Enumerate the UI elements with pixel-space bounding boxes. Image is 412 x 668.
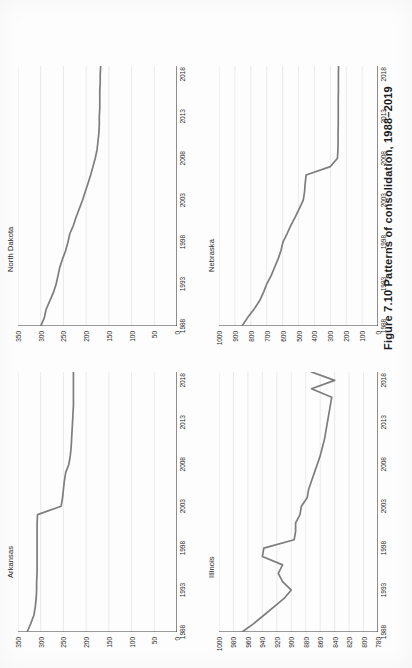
chart-panel-nebraska: Nebraska 0100200300400500600700800900100… xyxy=(205,62,404,356)
y-tick-label: 700 xyxy=(263,331,270,342)
x-axis-north-dakota: 1988199319982003200820132018 xyxy=(179,66,195,326)
x-tick-label: 2018 xyxy=(179,67,186,81)
plot-canvas-nebraska xyxy=(219,66,378,326)
x-tick-label: 1988 xyxy=(179,319,186,333)
x-tick-label: 2003 xyxy=(179,499,186,513)
x-tick-label: 1998 xyxy=(179,235,186,249)
figure-page: Arkansas 050100150200250300350 198819931… xyxy=(0,0,412,668)
y-axis-arkansas: 050100150200250300350 xyxy=(18,634,177,662)
plot-canvas-illinois xyxy=(219,372,378,632)
y-tick-label: 300 xyxy=(327,331,334,342)
chart-title-north-dakota: North Dakota xyxy=(6,227,15,272)
y-tick-label: 200 xyxy=(83,331,90,342)
y-tick-label: 150 xyxy=(105,637,112,648)
x-tick-label: 1993 xyxy=(380,583,387,597)
y-tick-label: 50 xyxy=(151,637,158,644)
y-tick-label: 800 xyxy=(360,637,367,648)
y-tick-label: 600 xyxy=(279,331,286,342)
y-tick-label: 300 xyxy=(37,637,44,648)
y-tick-label: 400 xyxy=(311,331,318,342)
plot-area-north-dakota xyxy=(18,66,177,326)
plot-canvas-north-dakota xyxy=(18,66,177,326)
x-tick-label: 2008 xyxy=(179,457,186,471)
x-tick-label: 1988 xyxy=(179,625,186,639)
chart-grid: Arkansas 050100150200250300350 198819931… xyxy=(4,62,404,662)
x-axis-arkansas: 1988199319982003200820132018 xyxy=(179,372,195,632)
x-tick-label: 2013 xyxy=(179,109,186,123)
y-tick-label: 960 xyxy=(244,637,251,648)
plot-area-illinois xyxy=(219,372,378,632)
y-tick-label: 940 xyxy=(259,637,266,648)
y-tick-label: 800 xyxy=(247,331,254,342)
series-line xyxy=(242,66,339,326)
x-tick-label: 1993 xyxy=(179,277,186,291)
y-axis-north-dakota: 050100150200250300350 xyxy=(18,328,177,356)
series-line xyxy=(41,66,101,326)
y-tick-label: 900 xyxy=(288,637,295,648)
chart-panel-north-dakota: North Dakota 050100150200250300350 19881… xyxy=(4,62,203,356)
y-tick-label: 880 xyxy=(302,637,309,648)
x-tick-label: 2008 xyxy=(380,457,387,471)
x-tick-label: 1998 xyxy=(179,541,186,555)
y-tick-label: 200 xyxy=(343,331,350,342)
y-axis-illinois: 7808008208408608809009209409609801000 xyxy=(219,634,378,662)
y-tick-label: 250 xyxy=(60,331,67,342)
y-tick-label: 980 xyxy=(230,637,237,648)
y-tick-label: 1000 xyxy=(216,331,223,345)
x-tick-label: 2008 xyxy=(179,151,186,165)
chart-panel-illinois: Illinois 7808008208408608809009209409609… xyxy=(205,368,404,662)
y-tick-label: 500 xyxy=(295,331,302,342)
x-axis-illinois: 1988199319982003200820132018 xyxy=(380,372,396,632)
y-tick-label: 900 xyxy=(231,331,238,342)
chart-title-illinois: Illinois xyxy=(207,556,216,578)
y-tick-label: 350 xyxy=(15,331,22,342)
series-line xyxy=(242,372,335,632)
x-tick-label: 2018 xyxy=(380,67,387,81)
y-tick-label: 250 xyxy=(60,637,67,648)
x-tick-label: 2003 xyxy=(179,193,186,207)
y-tick-label: 300 xyxy=(37,331,44,342)
y-tick-label: 100 xyxy=(359,331,366,342)
rotated-page: Arkansas 050100150200250300350 198819931… xyxy=(0,0,412,668)
y-tick-label: 200 xyxy=(83,637,90,648)
figure-caption: Figure 7.10 Patterns of consolidation, 1… xyxy=(382,86,394,350)
chart-panel-arkansas: Arkansas 050100150200250300350 198819931… xyxy=(4,368,203,662)
chart-title-nebraska: Nebraska xyxy=(207,239,216,272)
y-tick-label: 150 xyxy=(105,331,112,342)
y-tick-label: 920 xyxy=(273,637,280,648)
chart-title-arkansas: Arkansas xyxy=(6,546,15,578)
x-tick-label: 1998 xyxy=(380,541,387,555)
y-tick-label: 840 xyxy=(331,637,338,648)
x-tick-label: 2018 xyxy=(380,373,387,387)
x-tick-label: 1988 xyxy=(380,625,387,639)
y-tick-label: 860 xyxy=(317,637,324,648)
x-tick-label: 2003 xyxy=(380,499,387,513)
plot-area-arkansas xyxy=(18,372,177,632)
plot-canvas-arkansas xyxy=(18,372,177,632)
y-tick-label: 50 xyxy=(151,331,158,338)
series-line xyxy=(27,372,73,632)
y-tick-label: 820 xyxy=(346,637,353,648)
x-tick-label: 2013 xyxy=(380,415,387,429)
y-tick-label: 100 xyxy=(128,331,135,342)
x-tick-label: 1993 xyxy=(179,583,186,597)
plot-area-nebraska xyxy=(219,66,378,326)
x-tick-label: 2018 xyxy=(179,373,186,387)
y-tick-label: 100 xyxy=(128,637,135,648)
y-tick-label: 350 xyxy=(15,637,22,648)
x-tick-label: 2013 xyxy=(179,415,186,429)
y-axis-nebraska: 01002003004005006007008009001000 xyxy=(219,328,378,356)
y-tick-label: 1000 xyxy=(216,637,223,651)
